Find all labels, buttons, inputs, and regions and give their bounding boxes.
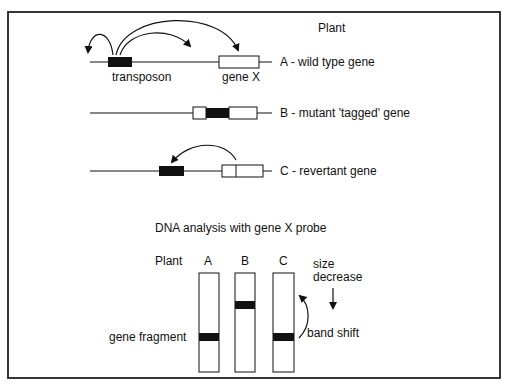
lane-c <box>273 273 294 372</box>
excision-arrow-left <box>88 34 113 55</box>
transposon-element <box>108 57 132 67</box>
row-c-label: C - revertant gene <box>280 164 377 178</box>
restored-gene-x-box <box>222 165 263 177</box>
band-c <box>273 333 294 341</box>
inserted-transposon <box>206 108 229 118</box>
excision-arrow <box>172 145 236 162</box>
gene-fragment-label: gene fragment <box>109 330 187 344</box>
row-c-revertant: C - revertant gene <box>90 145 377 178</box>
row-b-mutant: B - mutant 'tagged' gene <box>90 106 410 120</box>
gene-x-label: gene X <box>222 70 260 84</box>
gel-plant-label: Plant <box>155 254 183 268</box>
gene-x-right-part <box>229 107 257 119</box>
band-b <box>235 301 255 309</box>
gene-x-box <box>219 56 259 68</box>
excised-transposon <box>159 166 184 176</box>
lane-b <box>235 273 255 372</box>
lane-b-label: B <box>241 254 249 268</box>
row-b-label: B - mutant 'tagged' gene <box>280 106 410 120</box>
band-a <box>199 333 219 341</box>
gene-x-left-part <box>193 107 206 119</box>
decrease-label: decrease <box>313 270 363 284</box>
band-shift-label: band shift <box>307 326 360 340</box>
transposon-label: transposon <box>112 70 171 84</box>
plant-header: Plant <box>318 21 346 35</box>
lane-a <box>199 273 219 372</box>
analysis-title: DNA analysis with gene X probe <box>155 221 327 235</box>
row-a-label: A - wild type gene <box>280 55 375 69</box>
lane-a-label: A <box>204 254 212 268</box>
size-label: size <box>313 257 335 271</box>
transposon-tagging-diagram: Plant A - wild type gene transposon gene… <box>0 0 505 389</box>
transposition-arrow-short <box>120 33 190 55</box>
gel-diagram: Plant A B C gene fragment band shift siz… <box>109 254 363 372</box>
lane-c-label: C <box>279 254 288 268</box>
